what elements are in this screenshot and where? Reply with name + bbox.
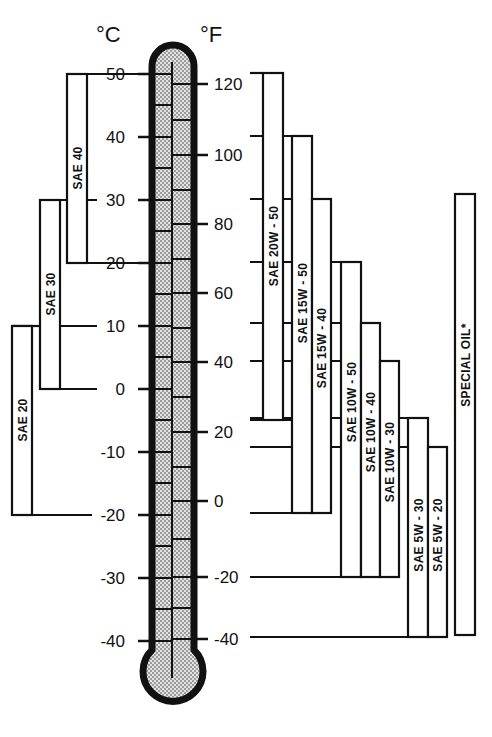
label-sae-20w-50: SAE 20W - 50	[267, 206, 281, 286]
label-sae-10w-40: SAE 10W - 40	[364, 392, 378, 472]
fahrenheit-tick-minus20: -20	[214, 568, 239, 587]
fahrenheit-tick-20: 20	[214, 423, 233, 442]
celsius-tick-0: 0	[116, 380, 125, 399]
label-sae-10w-50: SAE 10W - 50	[345, 362, 359, 442]
celsius-tick-minus20: -20	[100, 506, 125, 525]
label-sae-30: SAE 30	[44, 272, 58, 315]
label-sae-5w-30: SAE 5W - 30	[412, 498, 426, 571]
celsius-axis: 50 40 30 20 10 0 -10 -20 -30 -40	[100, 65, 152, 651]
fahrenheit-tick-0: 0	[214, 492, 223, 511]
celsius-tick-40: 40	[106, 128, 125, 147]
celsius-tick-10: 10	[106, 317, 125, 336]
fahrenheit-tick-minus40: -40	[214, 630, 239, 649]
celsius-tick-30: 30	[106, 191, 125, 210]
label-sae-20: SAE 20	[16, 398, 30, 441]
celsius-unit-label: °C	[96, 22, 121, 47]
label-sae-15w-40: SAE 15W - 40	[315, 308, 329, 388]
multi-grade-oils: SAE 20W - 50 SAE 15W - 50 SAE 15W - 40 S…	[250, 73, 475, 637]
label-sae-15w-50: SAE 15W - 50	[296, 263, 310, 343]
label-sae-40: SAE 40	[71, 146, 85, 189]
thermometer-icon	[143, 45, 203, 701]
oil-viscosity-temperature-chart: °C °F	[0, 0, 492, 737]
fahrenheit-tick-120: 120	[214, 75, 242, 94]
fahrenheit-tick-40: 40	[214, 353, 233, 372]
fahrenheit-tick-100: 100	[214, 146, 242, 165]
fahrenheit-axis: 120 100 80 60 40 20 0 -20 -40	[194, 75, 242, 649]
label-sae-10w-30: SAE 10W - 30	[383, 422, 397, 502]
celsius-tick-minus30: -30	[100, 569, 125, 588]
fahrenheit-unit-label: °F	[200, 22, 222, 47]
celsius-tick-minus10: -10	[100, 443, 125, 462]
fahrenheit-tick-60: 60	[214, 284, 233, 303]
bar-special-oil	[455, 194, 475, 635]
label-sae-5w-20: SAE 5W - 20	[431, 498, 445, 571]
celsius-tick-minus40: -40	[100, 632, 125, 651]
label-special-oil: SPECIAL OIL*	[459, 323, 473, 406]
fahrenheit-tick-80: 80	[214, 215, 233, 234]
